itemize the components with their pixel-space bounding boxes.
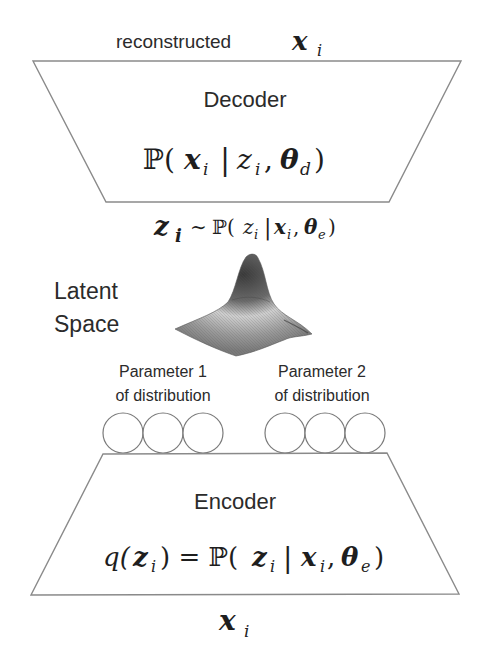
parameter-1-label: Parameter 1 (119, 363, 207, 380)
prob-open: ℙ( (143, 143, 175, 176)
z-var: z (242, 215, 254, 239)
x-subscript: i (317, 41, 322, 60)
decoder-shape (33, 61, 461, 202)
neuron-node (143, 413, 183, 453)
neuron-node (265, 413, 305, 453)
comma: , (264, 143, 273, 176)
x-var: x (291, 26, 308, 56)
given-bar: | (283, 541, 292, 574)
theta-var: θ (341, 542, 359, 572)
tilde: ∼ (190, 215, 207, 239)
theta-subscript: e (361, 557, 370, 576)
prob-close: ) (328, 215, 336, 239)
decoder-title: Decoder (203, 87, 286, 112)
z-subscript: i (151, 557, 156, 576)
input-label: x i (218, 604, 249, 641)
x-subscript: i (287, 227, 291, 242)
neuron-node (103, 413, 143, 453)
prob-open: ℙ( (212, 215, 235, 239)
x-var: x (218, 604, 236, 637)
x-var: x (183, 143, 201, 176)
parameter-1-sublabel: of distribution (115, 387, 210, 404)
x-subscript: i (203, 159, 208, 179)
z-subscript: i (175, 225, 182, 246)
theta-subscript: d (300, 159, 311, 179)
theta-subscript: e (318, 227, 326, 242)
parameter-2-label: Parameter 2 (278, 363, 366, 380)
comma: , (293, 215, 299, 239)
prob-close: ) (374, 542, 384, 572)
z-subscript: i (255, 159, 260, 179)
reconstructed-output-label: reconstructed x i (116, 26, 322, 60)
neuron-node (345, 413, 385, 453)
parameter-2-group: Parameter 2 of distribution (265, 363, 385, 453)
latent-space-label: Latent Space (54, 278, 119, 337)
comma: , (327, 542, 335, 572)
gaussian-surface-icon (175, 254, 312, 356)
prob-close: ) (314, 143, 325, 176)
neuron-node (183, 413, 223, 453)
z-var: z (251, 542, 268, 572)
encoder-shape (31, 453, 459, 595)
space-text: Space (54, 311, 119, 337)
vae-diagram: reconstructed x i Decoder ℙ( x i | z i ,… (0, 0, 481, 669)
z-var: z (153, 211, 170, 241)
given-bar: | (264, 215, 271, 241)
latent-text: Latent (54, 278, 119, 304)
given-bar: | (220, 142, 230, 177)
z-subscript: i (270, 557, 275, 576)
neuron-node (305, 413, 345, 453)
x-var: x (273, 215, 287, 239)
equals-prob: ) = ℙ( (160, 542, 238, 572)
q-func: q( (103, 542, 131, 572)
sampling-label: z i ∼ ℙ( z i | x i , θ e ) (153, 211, 336, 246)
x-subscript: i (320, 557, 325, 576)
encoder-title: Encoder (194, 489, 276, 514)
parameter-1-group: Parameter 1 of distribution (103, 363, 223, 453)
z-subscript: i (254, 227, 258, 242)
reconstructed-text: reconstructed (116, 31, 231, 52)
encoder-block: Encoder q( z i ) = ℙ( z i | x i , θ e ) (31, 453, 459, 595)
theta-var: θ (304, 215, 318, 239)
theta-var: θ (280, 143, 299, 176)
x-var: x (300, 542, 317, 572)
z-var: z (236, 143, 252, 176)
x-subscript: i (244, 621, 249, 641)
parameter-2-sublabel: of distribution (274, 387, 369, 404)
z-var: z (132, 542, 149, 572)
decoder-block: Decoder ℙ( x i | z i , θ d ) (33, 61, 461, 202)
